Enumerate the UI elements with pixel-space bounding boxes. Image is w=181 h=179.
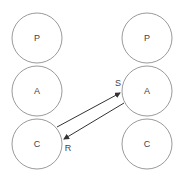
stimulus-arrow [57,93,120,127]
left-adult-label: A [34,86,40,96]
right-child-label: C [144,139,151,149]
response-label: R [65,143,72,153]
response-arrow [64,103,124,139]
ego-state-diagram: P A C P A C S R [0,0,181,179]
right-person: P A C [122,13,172,169]
right-parent-label: P [144,33,150,43]
stimulus-label: S [115,78,121,88]
right-adult-label: A [144,86,150,96]
left-parent-label: P [34,33,40,43]
left-person: P A C [12,13,62,169]
left-child-label: C [34,139,41,149]
